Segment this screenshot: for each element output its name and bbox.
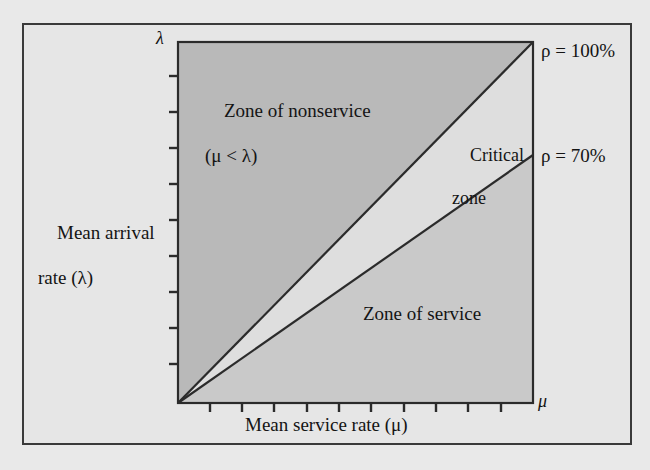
- annotation-nonservice-line2: (μ < λ): [205, 145, 371, 167]
- figure-root: λ μ Zone of nonservice (μ < λ) Critical …: [0, 0, 650, 470]
- x-axis-ticks: [210, 403, 501, 412]
- annotation-critical-line2: zone: [452, 188, 524, 209]
- y-axis-title: Mean arrival rate (λ): [38, 200, 155, 334]
- annotation-zone-of-nonservice: Zone of nonservice (μ < λ): [205, 78, 371, 212]
- annotation-zone-of-service: Zone of service: [363, 303, 481, 325]
- y-axis-tip-label: λ: [156, 28, 164, 49]
- annotation-critical-zone: Critical zone: [452, 124, 524, 251]
- annotation-critical-line1: Critical: [470, 145, 524, 165]
- y-axis-title-line2: rate (λ): [38, 267, 155, 289]
- x-axis-tip-label: μ: [538, 391, 547, 412]
- annotation-nonservice-line1: Zone of nonservice: [224, 100, 371, 121]
- y-axis-title-line1: Mean arrival: [57, 222, 155, 243]
- legend-rho-70: ρ = 70%: [541, 145, 606, 167]
- x-axis-title: Mean service rate (μ): [245, 414, 408, 436]
- y-axis-ticks: [169, 76, 178, 364]
- legend-rho-100: ρ = 100%: [541, 40, 615, 62]
